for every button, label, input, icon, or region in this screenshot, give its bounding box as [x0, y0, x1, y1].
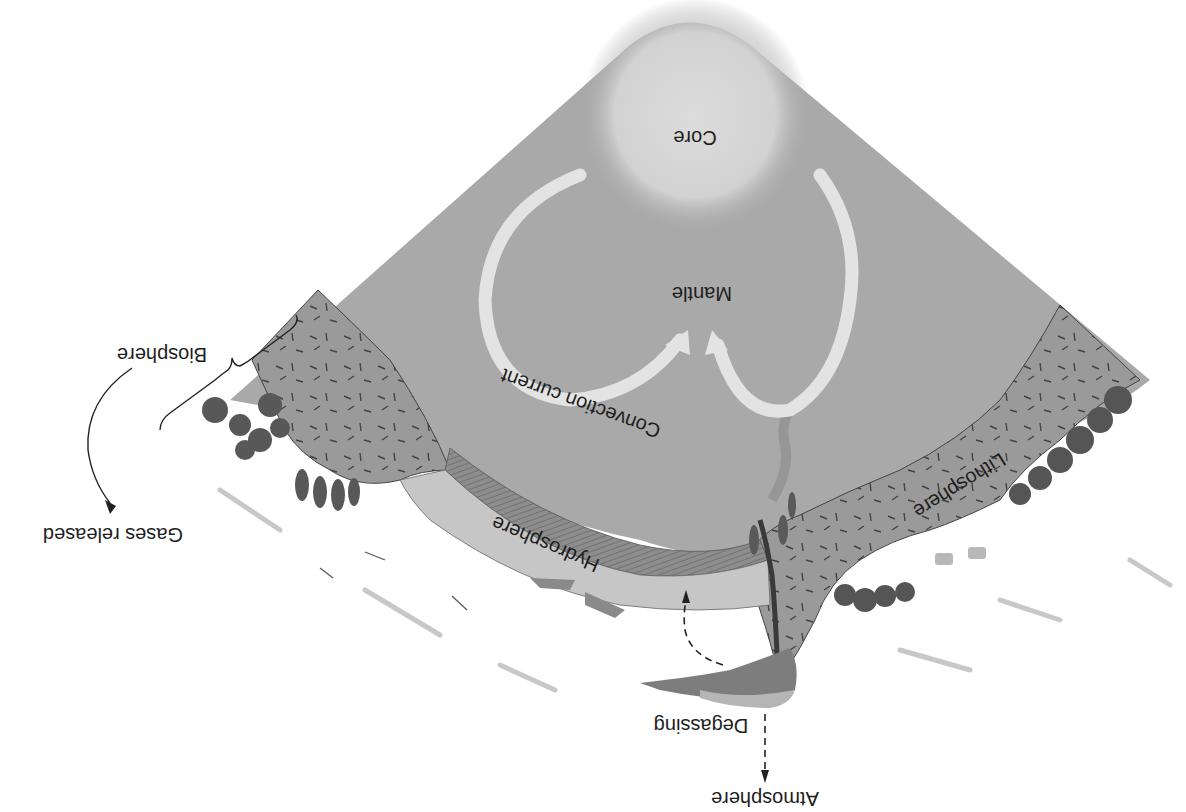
- earth-layers-diagram: Core Mantle Convection current Lithosphe…: [0, 0, 1186, 812]
- cows: [935, 547, 986, 565]
- birds: [320, 552, 467, 610]
- label-atmosphere: Atmosphere: [711, 788, 819, 810]
- core-region: [580, 0, 810, 233]
- magma-chamber: [788, 492, 796, 518]
- magma-chamber: [749, 525, 759, 555]
- arrowhead: [761, 770, 769, 783]
- arrowhead: [105, 500, 116, 514]
- gases-released-arrow: [88, 368, 132, 503]
- label-degassing: Degassing: [654, 715, 749, 737]
- label-gases-released: Gases released: [43, 524, 183, 546]
- degassing-cloud: [640, 648, 797, 700]
- label-core: Core: [673, 127, 716, 149]
- magma-chamber: [778, 515, 788, 545]
- label-biosphere: Biosphere: [117, 344, 207, 366]
- label-mantle: Mantle: [672, 283, 732, 305]
